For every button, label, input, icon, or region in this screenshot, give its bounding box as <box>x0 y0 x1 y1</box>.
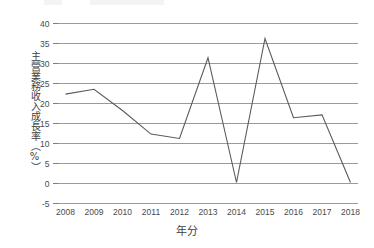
x-tick-label: 2009 <box>85 207 104 217</box>
y-tick-label: 35 <box>40 39 50 49</box>
x-tick-label: 2011 <box>142 207 161 217</box>
y-tick-label: 40 <box>40 19 50 29</box>
x-tick-label: 2012 <box>170 207 189 217</box>
y-tick-labels: 4035302520151050-5 <box>40 19 50 209</box>
data-series <box>66 39 351 183</box>
x-tick-label: 2010 <box>113 207 132 217</box>
y-tick-label: 30 <box>40 59 50 69</box>
x-tick-labels: 2008200920102011201220132014201520162017… <box>56 207 360 217</box>
x-tick-label: 2014 <box>227 207 246 217</box>
y-tick-label: 10 <box>40 139 50 149</box>
y-tick-label: 0 <box>45 179 50 189</box>
x-tick-label: 2018 <box>341 207 360 217</box>
line-chart: 主營業務收入成長率（%） 4035302520151050-5 20082009… <box>0 0 374 248</box>
y-tick-label: -5 <box>42 199 50 209</box>
x-tick-label: 2013 <box>199 207 218 217</box>
x-tick-label: 2017 <box>313 207 332 217</box>
x-tick-label: 2008 <box>56 207 75 217</box>
y-tick-label: 15 <box>40 119 50 129</box>
y-tick-label: 5 <box>45 159 50 169</box>
x-tick-label: 2015 <box>256 207 275 217</box>
y-tick-label: 20 <box>40 99 50 109</box>
y-tick-label: 25 <box>40 79 50 89</box>
gridlines <box>58 24 358 204</box>
x-axis-title: 年分 <box>0 222 374 238</box>
plot-area: 4035302520151050-5 200820092010201120122… <box>0 0 374 248</box>
series-line-main <box>66 39 351 183</box>
x-tick-label: 2016 <box>284 207 303 217</box>
y-tick-marks <box>53 24 58 204</box>
